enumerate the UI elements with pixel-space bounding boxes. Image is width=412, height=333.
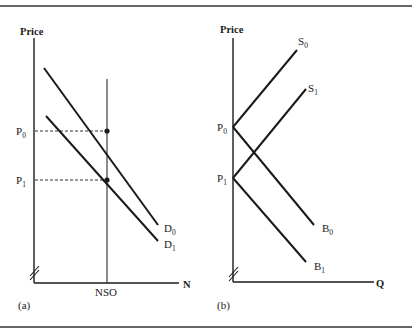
- panel-a: Price N NSO P0 P1 D0 D1 (a): [16, 26, 191, 312]
- panel-b-caption: (b): [217, 299, 230, 312]
- b1-label: B1: [314, 260, 325, 275]
- panel-a-p0-label: P0: [16, 125, 26, 140]
- equilibrium-dot-p1: [104, 177, 109, 182]
- equilibrium-dot-p0: [104, 128, 109, 133]
- panel-b: Price Q P0 P1 S0 S1 B0 B1 (b): [217, 24, 384, 312]
- s1-label: S1: [308, 82, 318, 97]
- demand-curve-d0: [44, 68, 158, 225]
- panel-a-p1-label: P1: [16, 174, 26, 189]
- supply-curve-s1: [233, 89, 306, 178]
- d0-label: D0: [164, 222, 176, 237]
- panel-b-y-axis-label: Price: [220, 24, 244, 35]
- panel-b-x-axis-label: Q: [376, 278, 384, 289]
- supply-curve-s0: [233, 50, 297, 127]
- nso-label: NSO: [95, 286, 117, 298]
- panel-a-y-axis-label: Price: [20, 26, 44, 37]
- curve-b0: [233, 127, 314, 225]
- curve-b1: [233, 178, 306, 262]
- economics-figure: Price N NSO P0 P1 D0 D1 (a) Price: [0, 0, 412, 333]
- b0-label: B0: [322, 222, 333, 237]
- panel-b-p0-label: P0: [217, 121, 227, 136]
- demand-curve-d1: [46, 116, 158, 241]
- s0-label: S0: [298, 35, 308, 50]
- d1-label: D1: [164, 238, 176, 253]
- panel-b-p1-label: P1: [217, 172, 227, 187]
- panel-a-x-axis-label: N: [183, 279, 191, 290]
- panel-a-caption: (a): [18, 299, 31, 312]
